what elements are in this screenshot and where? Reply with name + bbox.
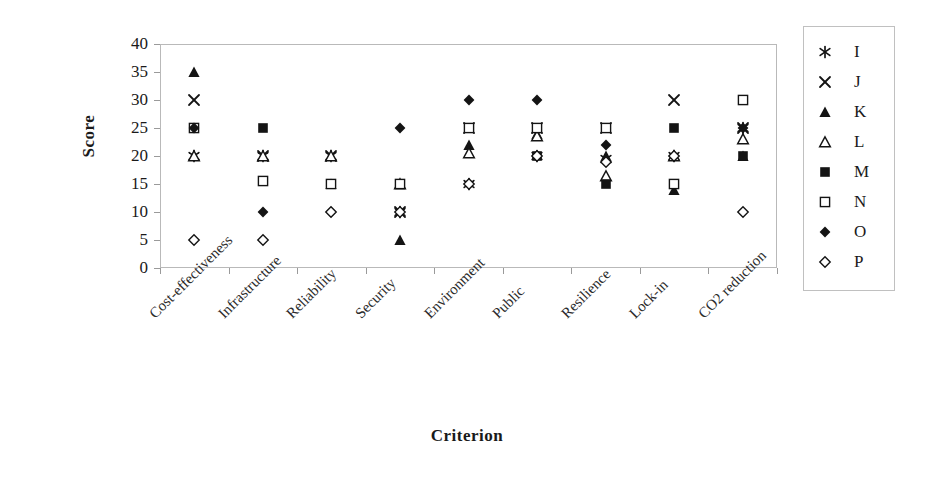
y-tick-label: 40 — [108, 35, 148, 52]
y-tick-mark — [154, 72, 160, 73]
x-tick-label: Reliability — [283, 265, 340, 322]
legend-item[interactable]: O — [804, 217, 896, 247]
plot-area — [160, 44, 777, 268]
y-tick-label: 10 — [108, 203, 148, 220]
legend-marker-icon — [818, 255, 832, 269]
x-tick-label: Resilience — [558, 266, 614, 322]
x-tick-label: Security — [352, 275, 399, 322]
y-tick-label: 15 — [108, 175, 148, 192]
x-tick-mark — [297, 268, 298, 274]
x-tick-mark — [434, 268, 435, 274]
legend-item-label: L — [854, 131, 864, 153]
x-axis-title: Criterion — [317, 426, 617, 446]
legend-item[interactable]: J — [804, 67, 896, 97]
y-tick-mark — [154, 128, 160, 129]
legend-item[interactable]: N — [804, 187, 896, 217]
legend-item-label: M — [854, 161, 869, 183]
x-tick-label: Lock-in — [626, 276, 672, 322]
legend-marker-icon — [818, 195, 832, 209]
y-tick-label: 5 — [108, 231, 148, 248]
x-tick-mark — [571, 268, 572, 274]
legend-marker-icon — [818, 135, 832, 149]
x-tick-mark — [640, 268, 641, 274]
legend-item[interactable]: K — [804, 97, 896, 127]
legend-item-label: P — [854, 251, 863, 273]
y-tick-label: 0 — [108, 259, 148, 276]
legend-item-label: O — [854, 221, 866, 243]
legend-item-label: N — [854, 191, 866, 213]
legend-marker-icon — [818, 75, 832, 89]
legend-item-label: I — [854, 41, 860, 63]
legend-marker-icon — [818, 45, 832, 59]
legend-item[interactable]: I — [804, 37, 896, 67]
legend-marker-icon — [818, 165, 832, 179]
y-tick-label: 25 — [108, 119, 148, 136]
legend-item[interactable]: M — [804, 157, 896, 187]
legend-marker-icon — [818, 105, 832, 119]
x-tick-mark — [366, 268, 367, 274]
y-tick-mark — [154, 100, 160, 101]
legend-item[interactable]: L — [804, 127, 896, 157]
legend-item[interactable]: P — [804, 247, 896, 277]
y-tick-mark — [154, 212, 160, 213]
y-axis-title: Score — [79, 91, 99, 181]
y-tick-mark — [154, 156, 160, 157]
x-tick-mark — [777, 268, 778, 274]
y-tick-label: 20 — [108, 147, 148, 164]
x-tick-mark — [503, 268, 504, 274]
legend: IJKLMNOP — [803, 26, 895, 291]
legend-item-label: J — [854, 71, 861, 93]
x-tick-mark — [708, 268, 709, 274]
x-tick-mark — [229, 268, 230, 274]
y-tick-mark — [154, 184, 160, 185]
y-tick-mark — [154, 240, 160, 241]
legend-item-label: K — [854, 101, 866, 123]
scatter-chart-figure: Score 0510152025303540 Cost-effectivenes… — [0, 0, 934, 478]
y-tick-label: 35 — [108, 63, 148, 80]
x-tick-label: Public — [489, 283, 528, 322]
y-tick-mark — [154, 44, 160, 45]
y-tick-label: 30 — [108, 91, 148, 108]
legend-marker-icon — [818, 225, 832, 239]
x-tick-mark — [160, 268, 161, 274]
